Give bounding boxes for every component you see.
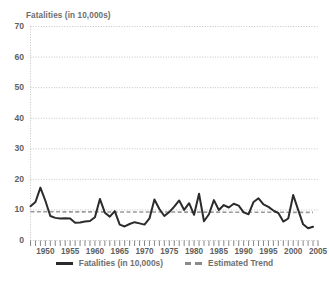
y-axis-tick-label: 30 xyxy=(2,143,24,153)
legend-label-estimated-trend: Estimated Trend xyxy=(208,258,273,268)
y-axis-tick-label: 60 xyxy=(2,52,24,62)
x-axis-tick-label: 2005 xyxy=(303,247,329,256)
legend-item-estimated-trend[interactable]: Estimated Trend xyxy=(185,258,273,268)
estimated-trend-line xyxy=(31,212,314,213)
y-axis-tick-label: 10 xyxy=(2,204,24,214)
plot-area xyxy=(0,0,329,282)
y-axis-tick-label: 0 xyxy=(2,235,24,245)
fatalities-series-line xyxy=(31,188,314,229)
legend-item-fatalities[interactable]: Fatalities (in 10,000s) xyxy=(56,258,163,268)
gridlines xyxy=(31,27,319,241)
y-axis-tick-label: 40 xyxy=(2,113,24,123)
y-axis-tick-label: 70 xyxy=(2,21,24,31)
dashed-line-key-icon xyxy=(185,262,202,265)
solid-line-key-icon xyxy=(56,262,73,265)
y-axis-tick-label: 20 xyxy=(2,174,24,184)
chart-legend: Fatalities (in 10,000s) Estimated Trend xyxy=(0,258,329,268)
line-chart: Fatalities (in 10,000s) 010203040506070 … xyxy=(0,0,329,282)
x-axis-ticks xyxy=(31,241,319,247)
legend-label-fatalities: Fatalities (in 10,000s) xyxy=(79,258,163,268)
y-axis-tick-label: 50 xyxy=(2,82,24,92)
